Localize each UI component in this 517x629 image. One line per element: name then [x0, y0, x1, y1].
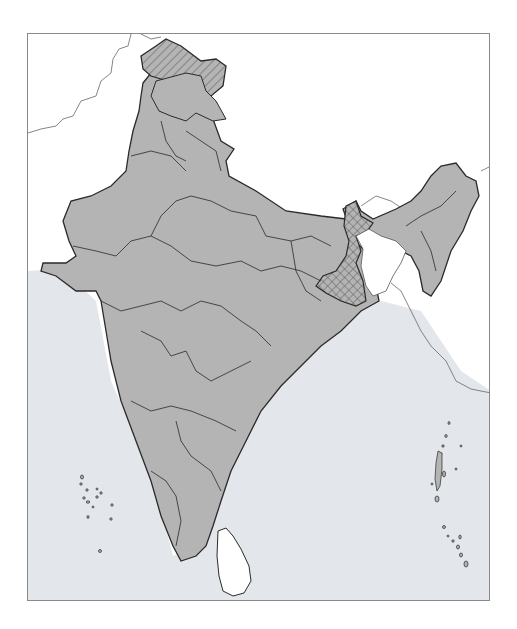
india-map [28, 34, 490, 601]
map-frame [27, 33, 490, 601]
